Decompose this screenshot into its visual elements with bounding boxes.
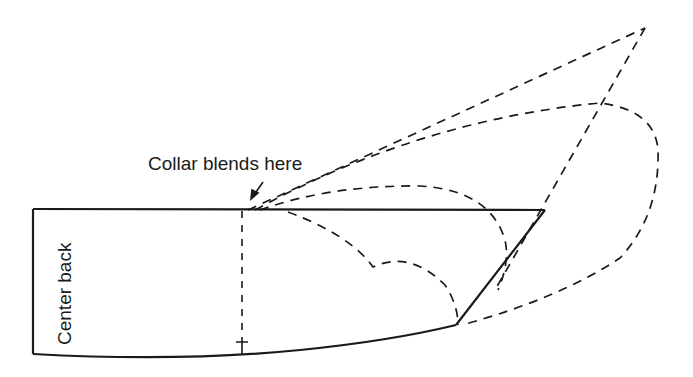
- pattern-outline: [33, 209, 545, 357]
- rounded-collar-line: [260, 186, 506, 290]
- alternate-outlines: [248, 28, 658, 325]
- guide-tick: [236, 342, 248, 354]
- diagram-canvas: Collar blends here Center back: [0, 0, 693, 377]
- top-edge: [33, 209, 545, 210]
- large-rounded-collar-line: [255, 103, 658, 325]
- pointed-collar-upper-line: [248, 28, 645, 210]
- scalloped-collar-line: [288, 212, 458, 325]
- center-guide: [236, 211, 248, 354]
- blend-arrow: [251, 182, 263, 199]
- pointed-collar-down-line: [495, 28, 645, 290]
- collar-blend-label: Collar blends here: [148, 153, 302, 174]
- neckline-curve: [33, 325, 456, 357]
- collar-pattern-diagram: Collar blends here Center back: [0, 0, 693, 377]
- center-back-label: Center back: [54, 242, 75, 345]
